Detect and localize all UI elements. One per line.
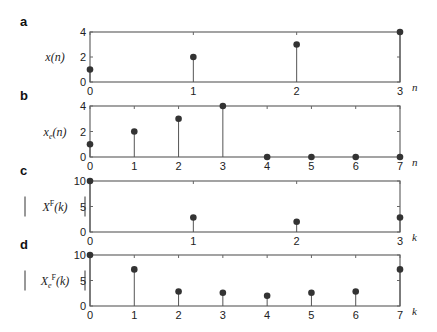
- panel-letter: a: [20, 14, 28, 29]
- panel-letter: d: [20, 237, 28, 252]
- stem-marker: [87, 178, 94, 185]
- y-tick-label: 0: [80, 151, 86, 163]
- panel-letter: c: [20, 163, 27, 178]
- y-tick-label: 4: [80, 26, 86, 38]
- stem-marker: [293, 41, 300, 48]
- stem-marker: [308, 289, 315, 296]
- x-tick-label: 0: [87, 235, 93, 247]
- stem-marker: [352, 154, 359, 161]
- stem-marker: [293, 219, 300, 226]
- y-axis-label: XeF(k): [40, 273, 70, 290]
- x-tick-label: 6: [353, 309, 359, 321]
- axes-box: [90, 32, 400, 82]
- stem-marker: [190, 54, 197, 61]
- y-tick-label: 10: [74, 249, 86, 261]
- x-tick-label: 2: [294, 85, 300, 97]
- x-tick-label: 1: [190, 85, 196, 97]
- x-tick-label: 7: [397, 160, 403, 172]
- y-tick-label: 0: [80, 76, 86, 88]
- x-tick-label: 3: [220, 309, 226, 321]
- stem-marker: [87, 252, 94, 259]
- x-tick-label: 2: [176, 309, 182, 321]
- x-axis-label: n: [412, 81, 418, 93]
- x-tick-label: 3: [397, 235, 403, 247]
- panel-d: d051001234567kXeF(k): [20, 237, 418, 321]
- x-tick-label: 6: [353, 160, 359, 172]
- stem-marker: [397, 214, 404, 221]
- x-tick-label: 5: [308, 160, 314, 172]
- x-tick-label: 7: [397, 309, 403, 321]
- y-tick-label: 2: [80, 51, 86, 63]
- y-tick-label: 10: [74, 175, 86, 187]
- stem-marker: [175, 288, 182, 295]
- stem-marker: [131, 266, 138, 273]
- y-tick-label: 4: [80, 100, 86, 112]
- y-tick-label: 0: [80, 226, 86, 238]
- x-tick-label: 5: [308, 309, 314, 321]
- y-axis-label: x(n): [44, 50, 64, 64]
- stem-marker: [175, 115, 182, 122]
- panel-letter: b: [20, 88, 28, 103]
- y-tick-label: 0: [80, 300, 86, 312]
- x-axis-label: k: [412, 231, 418, 243]
- stem-marker: [308, 154, 315, 161]
- axes-box: [90, 255, 400, 306]
- x-tick-label: 4: [264, 160, 270, 172]
- y-tick-label: 2: [80, 126, 86, 138]
- panel-b: b02401234567nxe(n): [20, 88, 418, 172]
- stem-marker: [264, 154, 271, 161]
- stem-plot-figure: a0240123nx(n)b02401234567nxe(n)c05100123…: [0, 0, 437, 332]
- x-tick-label: 0: [87, 160, 93, 172]
- stem-marker: [220, 103, 227, 110]
- y-axis-label: xe(n): [43, 125, 67, 141]
- panel-a: a0240123nx(n): [20, 14, 418, 97]
- x-tick-label: 1: [190, 235, 196, 247]
- x-tick-label: 1: [131, 309, 137, 321]
- axes-box: [90, 181, 400, 232]
- stem-marker: [190, 214, 197, 221]
- x-axis-label: n: [412, 156, 418, 168]
- stem-marker: [131, 128, 138, 135]
- stem-marker: [397, 154, 404, 161]
- stem-marker: [87, 141, 94, 148]
- stem-marker: [352, 288, 359, 295]
- panel-c: c05100123kXF(k): [20, 163, 418, 247]
- y-axis-label: XF(k): [41, 199, 67, 214]
- x-tick-label: 2: [294, 235, 300, 247]
- x-tick-label: 4: [264, 309, 270, 321]
- x-axis-label: k: [412, 305, 418, 317]
- stem-marker: [87, 66, 94, 73]
- stem-marker: [264, 293, 271, 300]
- x-tick-label: 1: [131, 160, 137, 172]
- stem-marker: [397, 266, 404, 273]
- x-tick-label: 3: [220, 160, 226, 172]
- x-tick-label: 0: [87, 85, 93, 97]
- stem-marker: [397, 29, 404, 36]
- x-tick-label: 3: [397, 85, 403, 97]
- x-tick-label: 2: [176, 160, 182, 172]
- stem-marker: [220, 289, 227, 296]
- x-tick-label: 0: [87, 309, 93, 321]
